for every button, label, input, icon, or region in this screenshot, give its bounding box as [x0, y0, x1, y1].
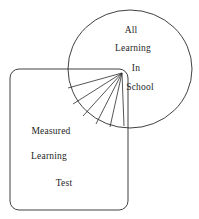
ellipse-label-2: Learning — [115, 43, 151, 53]
fan-line-4 — [96, 73, 122, 124]
rect-label-1: Measured — [31, 126, 70, 136]
ellipse-label-3: In — [132, 63, 140, 73]
fan-line-6 — [122, 73, 124, 126]
rect-label-2: Learning — [31, 151, 67, 161]
fan-line-1 — [68, 73, 122, 88]
diagram-canvas: AllLearningInSchoolMeasuredLearningTest — [0, 0, 199, 219]
rect-label-3: Test — [56, 178, 73, 188]
diagram-svg — [0, 0, 199, 219]
fan-line-3 — [83, 73, 122, 116]
rounded-rect-measured-learning-test — [10, 69, 128, 210]
fan-line-5 — [110, 73, 122, 127]
fan-line-2 — [73, 73, 122, 104]
ellipse-label-4: School — [126, 82, 154, 92]
ellipse-label-1: All — [125, 25, 138, 35]
